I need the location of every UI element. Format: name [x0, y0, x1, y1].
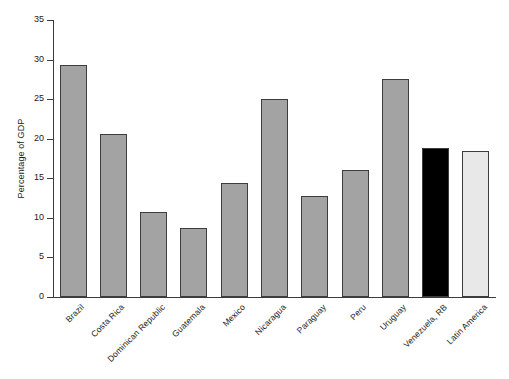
bar: [60, 65, 87, 297]
y-tick-label: 15: [0, 173, 44, 183]
bar: [301, 196, 328, 297]
y-tick-label: 35: [0, 15, 44, 25]
bar: [100, 134, 127, 297]
y-tick-label-text: 0: [0, 292, 44, 301]
y-tick-label-text: 35: [0, 15, 44, 24]
y-tick-mark: [47, 297, 53, 298]
bar: [462, 151, 489, 297]
x-axis-label: Brazil: [64, 302, 87, 325]
y-tick-label-text: 15: [0, 173, 44, 182]
bar: [382, 79, 409, 297]
plot-area: [53, 20, 496, 297]
x-axis-label: Mexico: [221, 302, 248, 329]
x-axis-label: Latin America: [445, 302, 489, 346]
y-tick-label: 5: [0, 252, 44, 262]
x-axis-label: Paraguay: [294, 302, 327, 335]
y-tick-label: 0: [0, 292, 44, 302]
y-tick-label: 10: [0, 213, 44, 223]
y-tick-label-text: 30: [0, 55, 44, 64]
bar: [140, 212, 167, 297]
bar: [221, 183, 248, 297]
x-axis-line: [53, 297, 496, 298]
y-tick-label-text: 10: [0, 213, 44, 222]
y-tick-label-text: 25: [0, 94, 44, 103]
x-axis-label: Guatemala: [170, 302, 207, 339]
y-tick-label: 30: [0, 55, 44, 65]
bar: [261, 99, 288, 297]
y-tick-label: 20: [0, 134, 44, 144]
x-axis-label: Nicaragua: [252, 302, 287, 337]
x-axis-label: Venezuela, RB: [401, 302, 449, 350]
y-tick-label: 25: [0, 94, 44, 104]
y-tick-label-text: 5: [0, 252, 44, 261]
bar-chart: Percentage of GDP 05101520253035 BrazilC…: [0, 0, 509, 379]
bar: [342, 170, 369, 297]
y-tick-label-text: 20: [0, 134, 44, 143]
bar: [180, 228, 207, 297]
x-axis-label: Costa Rica: [89, 302, 126, 339]
x-axis-label: Peru: [348, 302, 368, 322]
bar: [422, 148, 449, 297]
x-axis-label: Uruguay: [378, 302, 408, 332]
